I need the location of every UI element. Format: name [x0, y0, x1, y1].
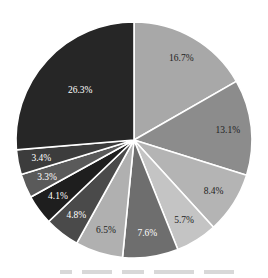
slice-label: 4.8%: [66, 210, 86, 220]
slice-label: 5.7%: [174, 215, 194, 225]
slice-label: 8.4%: [204, 186, 224, 196]
slice-label: 3.4%: [31, 153, 51, 163]
pie-chart: 16.7%13.1%8.4%5.7%7.6%6.5%4.8%4.1%3.3%3.…: [0, 0, 268, 278]
slice-label: 3.3%: [37, 172, 57, 182]
slice-label: 4.1%: [48, 191, 68, 201]
slice-label: 13.1%: [216, 125, 241, 135]
slice-label: 16.7%: [169, 53, 194, 63]
slice-label: 26.3%: [68, 85, 93, 95]
slice-label: 7.6%: [137, 228, 157, 238]
slice-label: 6.5%: [96, 225, 116, 235]
figure-caption-blurred: [60, 262, 268, 272]
